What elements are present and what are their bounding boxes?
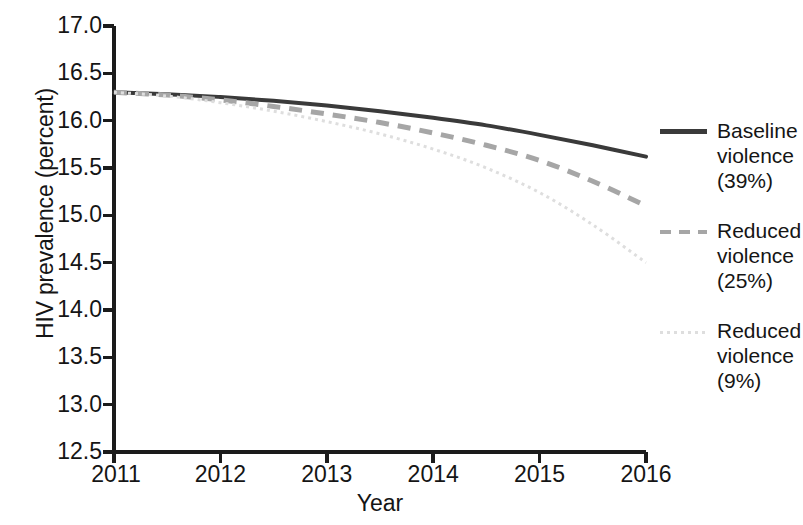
x-axis-tick-labels: 201120122013201420152016 — [0, 461, 803, 493]
y-tick-label: 15.5 — [34, 156, 102, 179]
x-tick-label: 2011 — [71, 461, 161, 487]
x-tick-label: 2014 — [388, 461, 478, 487]
axis-lines — [114, 26, 646, 452]
x-tick-label: 2012 — [175, 461, 265, 487]
y-tick-label: 14.0 — [34, 298, 102, 321]
legend-label: Baseline violence (39%) — [717, 118, 803, 193]
x-axis-title: Year — [114, 490, 646, 517]
data-series-lines — [114, 92, 646, 262]
legend-label: Reduced violence (25%) — [717, 218, 803, 293]
plot-area — [0, 0, 803, 525]
x-tick-label: 2015 — [495, 461, 585, 487]
legend-label: Reduced violence (9%) — [717, 318, 803, 393]
y-axis-tick-labels: 12.513.013.514.014.515.015.516.016.517.0 — [34, 0, 102, 525]
y-tick-label: 14.5 — [34, 251, 102, 274]
legend-swatch-dashed-line-icon — [660, 230, 707, 234]
chart-figure: HIV prevalence (percent) 12.513.013.514.… — [0, 0, 803, 525]
y-tick-label: 12.5 — [34, 440, 102, 463]
x-tick-label: 2013 — [282, 461, 372, 487]
y-tick-label: 15.0 — [34, 203, 102, 226]
x-tick-label: 2016 — [601, 461, 691, 487]
legend-swatch-dotted-line-icon — [660, 331, 707, 334]
legend-swatch-solid-line-icon — [660, 129, 707, 134]
y-tick-label: 16.5 — [34, 61, 102, 84]
y-tick-label: 13.0 — [34, 393, 102, 416]
y-tick-label: 17.0 — [34, 14, 102, 37]
y-tick-label: 13.5 — [34, 345, 102, 368]
series-line-3 — [114, 92, 646, 262]
y-tick-label: 16.0 — [34, 109, 102, 132]
